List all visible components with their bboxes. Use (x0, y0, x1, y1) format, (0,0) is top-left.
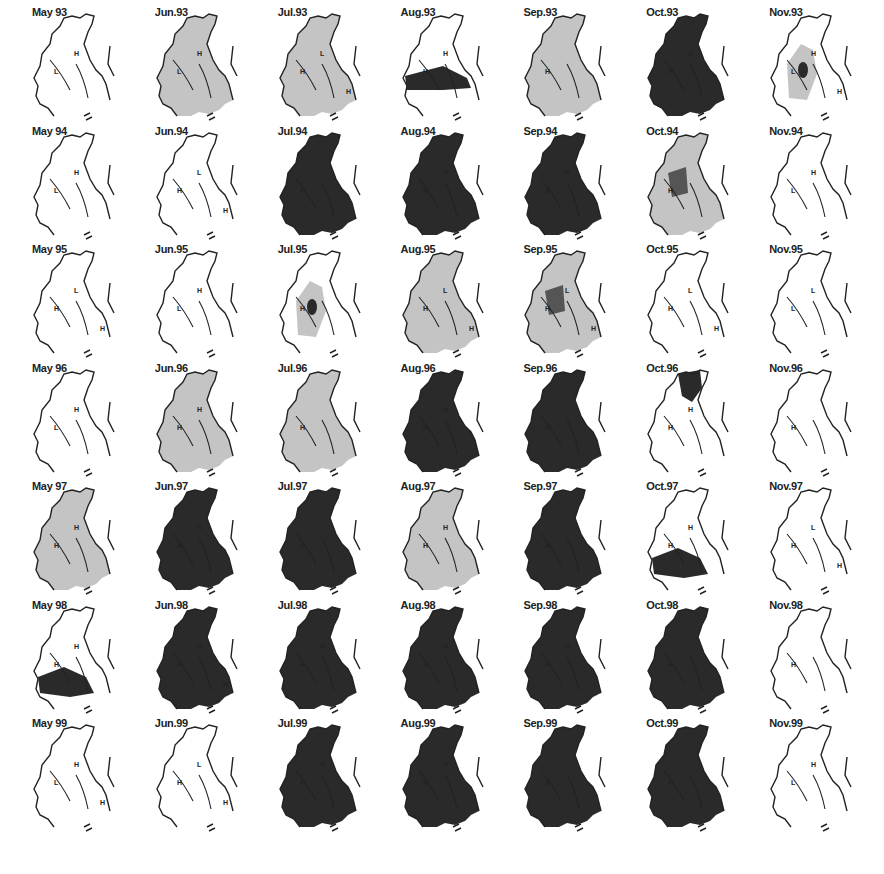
pressure-mark: H (443, 50, 448, 57)
pressure-mark: H (565, 169, 570, 176)
contour-map: LH (137, 241, 259, 359)
pressure-mark: H (300, 542, 305, 549)
pressure-mark: H (791, 542, 796, 549)
contour-map: HH (14, 597, 136, 715)
contour-map: HLH (628, 241, 750, 359)
map-panel: Aug.96 HH (383, 360, 506, 479)
map-panel: Nov.96 H (751, 360, 874, 479)
pressure-mark: H (346, 88, 351, 95)
pressure-mark: H (423, 661, 428, 668)
pressure-mark: L (197, 761, 202, 768)
contour-map: HH (383, 715, 505, 833)
map-panel: May 95 HLH (14, 241, 137, 360)
pressure-mark: L (54, 424, 59, 431)
contour-map: HH (137, 478, 259, 596)
map-panel: Nov.93 LHH (751, 4, 874, 123)
contour-map: HH (628, 4, 750, 122)
pressure-mark: H (177, 779, 182, 786)
pressure-mark: H (443, 169, 448, 176)
pressure-mark: H (811, 169, 816, 176)
pressure-mark: H (177, 424, 182, 431)
contour-map: HH (383, 597, 505, 715)
contour-map: HH (383, 123, 505, 241)
map-panel: May 94 LH (14, 123, 137, 242)
contour-map: HH (383, 4, 505, 122)
pressure-mark: H (177, 187, 182, 194)
map-panel: May 98 HH (14, 597, 137, 716)
map-panel: Aug.93 HH (383, 4, 506, 123)
contour-map: H (751, 360, 873, 478)
pressure-mark: H (300, 424, 305, 431)
contour-map: HH (137, 360, 259, 478)
contour-map: HH (14, 478, 136, 596)
map-panel: Sep.94 HH (505, 123, 628, 242)
contour-map: LL (751, 241, 873, 359)
pressure-mark: H (545, 779, 550, 786)
pressure-mark: H (320, 761, 325, 768)
pressure-mark: H (74, 406, 79, 413)
pressure-mark: L (688, 287, 693, 294)
pressure-mark: H (320, 643, 325, 650)
contour-map: LHH (14, 715, 136, 833)
pressure-mark: H (300, 661, 305, 668)
pressure-mark: H (74, 524, 79, 531)
contour-map: HH (505, 597, 627, 715)
contour-map: H (260, 241, 382, 359)
contour-map: H (628, 123, 750, 241)
pressure-mark: H (545, 305, 550, 312)
contour-map: HH (628, 478, 750, 596)
map-panel: Jul.97 H (260, 478, 383, 597)
pressure-mark: H (791, 424, 796, 431)
pressure-mark: H (545, 542, 550, 549)
pressure-mark: L (177, 305, 182, 312)
contour-map: HH (505, 123, 627, 241)
pressure-mark: H (443, 761, 448, 768)
contour-map: H (505, 360, 627, 478)
pressure-mark: H (668, 305, 673, 312)
contour-map: H (505, 478, 627, 596)
pressure-mark: H (811, 50, 816, 57)
pressure-mark: H (74, 50, 79, 57)
map-panel: Jun.96 HH (137, 360, 260, 479)
map-panel: Jul.96 H (260, 360, 383, 479)
map-panel: Oct.96 HH (628, 360, 751, 479)
pressure-mark: H (74, 643, 79, 650)
map-panel: Oct.98 H (628, 597, 751, 716)
map-panel: Nov.99 LH (751, 715, 874, 834)
map-panel: Sep.97 H (505, 478, 628, 597)
contour-map: HH (260, 597, 382, 715)
pressure-mark: H (668, 542, 673, 549)
contour-map: LHH (751, 4, 873, 122)
pressure-mark: H (54, 661, 59, 668)
pressure-mark: H (668, 424, 673, 431)
pressure-mark: H (100, 325, 105, 332)
map-panel: Jul.95 H (260, 241, 383, 360)
map-panel: Jun.99 HLH (137, 715, 260, 834)
pressure-mark: H (100, 799, 105, 806)
pressure-mark: L (54, 68, 59, 75)
contour-map: H (751, 597, 873, 715)
pressure-mark: L (54, 779, 59, 786)
contour-map: HH (628, 360, 750, 478)
pressure-mark: H (74, 169, 79, 176)
map-panel: Jun.94 HLH (137, 123, 260, 242)
map-panel: Oct.95 HLH (628, 241, 751, 360)
pressure-mark: L (565, 287, 570, 294)
contour-map: HLH (14, 241, 136, 359)
contour-map: HLH (383, 241, 505, 359)
pressure-mark: H (668, 661, 673, 668)
pressure-mark: H (300, 187, 305, 194)
pressure-mark: H (423, 305, 428, 312)
pressure-mark: L (74, 287, 79, 294)
pressure-mark: L (791, 187, 796, 194)
pressure-mark: H (300, 68, 305, 75)
pressure-mark: L (54, 187, 59, 194)
map-panel: Nov.95 LL (751, 241, 874, 360)
contour-map: HLH (260, 4, 382, 122)
pressure-mark: H (837, 88, 842, 95)
map-panel: Jul.99 HH (260, 715, 383, 834)
pressure-mark: H (423, 779, 428, 786)
pressure-mark: H (423, 542, 428, 549)
pressure-mark: H (668, 779, 673, 786)
pressure-mark: H (423, 424, 428, 431)
